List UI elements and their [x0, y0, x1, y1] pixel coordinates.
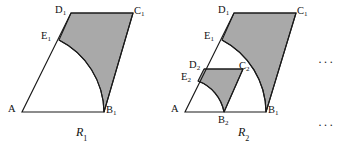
r2-shaded-region-small [198, 69, 243, 112]
r2-shaded-region-large [222, 13, 296, 112]
r2-label-E2: E2 [181, 72, 191, 83]
ellipsis-upper: ··· [318, 56, 335, 68]
r2-label-D1: D1 [218, 5, 229, 16]
r2-caption: R2 [238, 126, 249, 141]
figure-canvas: A B1 C1 D1 E1 R1 A B2 B1 C1 [0, 0, 345, 146]
r2-label-D2: D2 [189, 60, 200, 71]
r2-label-E1: E1 [204, 31, 214, 42]
r2-label-C1: C1 [297, 6, 308, 17]
ellipsis-lower: ··· [318, 119, 335, 131]
panel-r2-graphic [0, 0, 345, 146]
r2-label-C2: C2 [239, 61, 250, 72]
r2-label-B2: B2 [218, 115, 229, 126]
r2-label-A: A [171, 104, 179, 115]
r2-label-B1: B1 [268, 105, 279, 116]
